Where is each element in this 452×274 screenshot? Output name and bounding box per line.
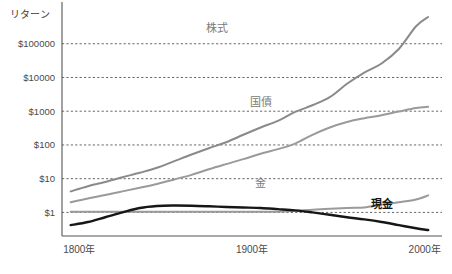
y-tick-label: $100000 xyxy=(18,38,55,49)
chart-container: $1$10$100$1000$10000$100000 1800年1900年20… xyxy=(0,0,452,274)
x-tick-label: 1900年 xyxy=(236,243,268,255)
series-line-国債 xyxy=(71,107,429,202)
x-tick-label: 2000年 xyxy=(409,243,441,255)
y-tick-label: $1 xyxy=(44,207,55,218)
y-tick-label: $10000 xyxy=(23,72,55,83)
series-label-金: 金 xyxy=(255,176,266,189)
series-inline-labels: 株式国債金現金 xyxy=(206,21,393,210)
gridlines xyxy=(62,44,442,213)
y-tick-label: $10 xyxy=(39,173,55,184)
return-comparison-line-chart: $1$10$100$1000$10000$100000 1800年1900年20… xyxy=(0,0,452,274)
y-tick-label: $100 xyxy=(34,139,55,150)
series-label-国債: 国債 xyxy=(250,95,272,108)
x-axis-tick-labels: 1800年1900年2000年 xyxy=(63,243,441,255)
y-tick-label: $1000 xyxy=(29,106,55,117)
series-label-現金: 現金 xyxy=(371,197,394,210)
y-axis-title: リターン xyxy=(10,9,50,20)
x-tick-label: 1800年 xyxy=(63,243,95,255)
series-label-株式: 株式 xyxy=(206,21,228,34)
y-axis-tick-labels: $1$10$100$1000$10000$100000 xyxy=(18,38,55,218)
